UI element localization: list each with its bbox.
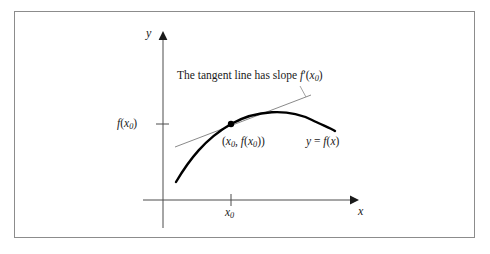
x0-tick-label: x0	[225, 207, 234, 221]
curve-equation-label: y = f(x)	[306, 136, 339, 148]
y-axis-arrowhead	[159, 31, 168, 40]
annotation-close-paren: )	[319, 69, 323, 81]
y-axis-value-label: f(x0)	[117, 118, 137, 132]
fx0-close-paren: )	[133, 117, 137, 129]
y-axis-name-label: y	[146, 27, 151, 39]
annotation-prefix-text: The tangent line has slope	[177, 69, 300, 81]
curve-close-paren: )	[336, 135, 340, 147]
figure-root: The tangent line has slope f′(x0) f(x0) …	[0, 0, 490, 254]
curve-equals-sign: =	[311, 135, 323, 147]
point-coordinates-label: (x0, f(x0))	[222, 136, 265, 150]
point-of-tangency-dot	[228, 121, 234, 127]
annotation-leader-line	[300, 86, 306, 97]
tangent-slope-annotation: The tangent line has slope f′(x0)	[177, 70, 323, 84]
x0-x-subscript: 0	[230, 211, 234, 220]
tangent-line-plot	[0, 0, 490, 254]
point-close-paren: )	[261, 135, 265, 147]
x-axis-name-label: x	[358, 205, 363, 217]
